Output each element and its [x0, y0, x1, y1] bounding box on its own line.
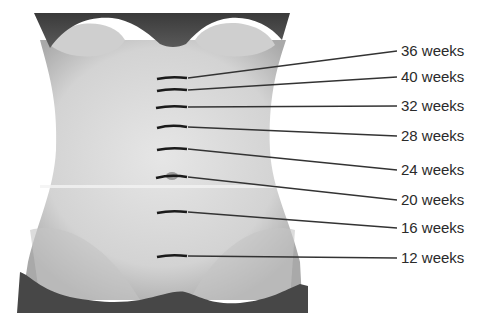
label-40-weeks: 40 weeks [401, 68, 464, 85]
label-24-weeks: 24 weeks [401, 161, 464, 178]
label-group: 36 weeks 40 weeks 32 weeks 28 weeks 24 w… [401, 42, 464, 266]
label-20-weeks: 20 weeks [401, 191, 464, 208]
label-32-weeks: 32 weeks [401, 97, 464, 114]
label-36-weeks: 36 weeks [401, 42, 464, 59]
label-28-weeks: 28 weeks [401, 127, 464, 144]
scan-band [40, 185, 280, 188]
label-16-weeks: 16 weeks [401, 219, 464, 236]
label-12-weeks: 12 weeks [401, 249, 464, 266]
fundal-height-diagram: 36 weeks 40 weeks 32 weeks 28 weeks 24 w… [0, 0, 495, 326]
